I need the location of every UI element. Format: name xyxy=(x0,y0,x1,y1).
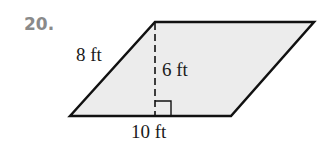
height-label: 6 ft xyxy=(162,59,189,80)
parallelogram-figure: 8 ft 6 ft 10 ft xyxy=(0,0,330,145)
base-label: 10 ft xyxy=(131,121,167,142)
side-label: 8 ft xyxy=(76,44,103,65)
parallelogram-shape xyxy=(70,22,314,116)
